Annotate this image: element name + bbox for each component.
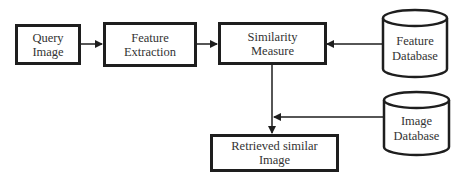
feature-extraction-node: Feature Extraction (103, 22, 197, 67)
feature-database-label: Feature Database (392, 34, 438, 64)
retrieved-image-label: Retrieved similar Image (231, 139, 317, 167)
feature-database-node: Feature Database (383, 28, 447, 70)
feature-extraction-label: Feature Extraction (124, 31, 176, 59)
query-image-node: Query Image (15, 24, 81, 65)
query-image-label: Query Image (32, 31, 63, 59)
retrieved-image-node: Retrieved similar Image (210, 134, 339, 172)
image-database-label: Image Database (394, 114, 440, 144)
similarity-measure-label: Similarity Measure (248, 30, 298, 58)
similarity-measure-node: Similarity Measure (218, 22, 327, 65)
image-database-node: Image Database (384, 109, 449, 149)
